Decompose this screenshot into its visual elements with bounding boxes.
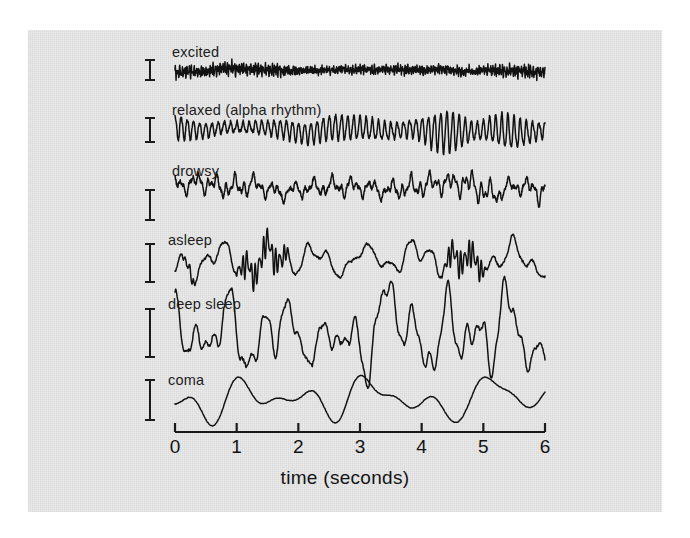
- x-tick-label-2: 2: [293, 436, 304, 458]
- x-tick-label-1: 1: [231, 436, 242, 458]
- scale-bar-deep-sleep: [145, 309, 155, 357]
- eeg-trace-asleep: [175, 228, 545, 291]
- trace-label-asleep: asleep: [168, 232, 212, 248]
- x-tick-label-3: 3: [355, 436, 366, 458]
- x-tick-label-4: 4: [416, 436, 427, 458]
- x-axis-group: [175, 423, 545, 432]
- eeg-trace-coma: [175, 375, 545, 425]
- x-tick-label-0: 0: [170, 436, 181, 458]
- trace-label-coma: coma: [168, 372, 204, 388]
- x-tick-label-6: 6: [540, 436, 551, 458]
- eeg-trace-deep-sleep: [175, 276, 545, 388]
- eeg-trace-excited: [175, 59, 545, 80]
- trace-label-deep-sleep: deep sleep: [168, 296, 241, 312]
- scale-bars-group: [145, 60, 155, 420]
- x-tick-label-5: 5: [478, 436, 489, 458]
- scale-bar-asleep: [145, 244, 155, 282]
- eeg-figure: excitedrelaxed (alpha rhythm)drowsyaslee…: [0, 0, 690, 538]
- scale-bar-relaxed: [145, 118, 155, 142]
- scale-bar-drowsy: [145, 190, 155, 220]
- eeg-trace-drowsy: [175, 170, 545, 207]
- trace-label-relaxed: relaxed (alpha rhythm): [172, 102, 321, 118]
- trace-label-excited: excited: [172, 44, 219, 60]
- trace-label-drowsy: drowsy: [172, 163, 219, 179]
- x-axis-title: time (seconds): [0, 467, 690, 489]
- scale-bar-excited: [145, 60, 155, 80]
- scale-bar-coma: [145, 380, 155, 420]
- eeg-plot-svg: [0, 0, 690, 538]
